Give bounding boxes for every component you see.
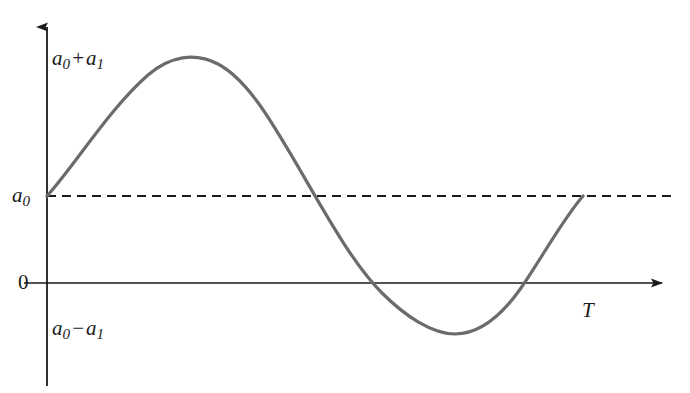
y-label-origin: 0 [18,272,29,293]
y-label-a0: a0 [12,185,30,209]
y-label-a0-minus-a1-sub1: 0 [63,326,71,342]
y-label-a0-plus-a1-sub2: 1 [97,56,105,72]
x-axis-label: T [582,300,594,321]
y-label-a0-sub: 0 [23,193,31,209]
y-label-a0-minus-a1-base: a [52,316,63,340]
y-label-a0-plus-a1-sub1: 0 [63,56,71,72]
y-label-a0-minus-a1-base2: a [86,316,97,340]
y-label-a0-plus-a1-operator: + [70,46,86,70]
y-label-a0-plus-a1-base2: a [86,46,97,70]
y-label-a0-base: a [12,183,23,207]
y-label-a0-minus-a1: a0−a1 [52,318,104,342]
sinusoid-figure: a0+a1 a0 0 a0−a1 T [0,0,690,393]
y-label-a0-plus-a1-base: a [52,46,63,70]
y-label-a0-plus-a1: a0+a1 [52,48,104,72]
y-label-a0-minus-a1-operator: − [70,316,86,340]
y-label-a0-minus-a1-sub2: 1 [97,326,105,342]
